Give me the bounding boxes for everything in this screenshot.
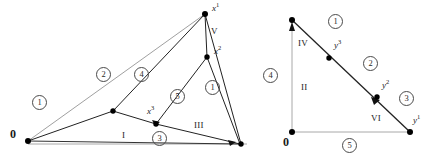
left-roman-III: III <box>194 121 204 130</box>
x2-to-bottomright-edge <box>207 57 240 144</box>
right-circ-3: 3 <box>399 91 414 106</box>
right-y3-sup: 3 <box>338 38 341 45</box>
figure-container: 0 x1 x2 x3 V I III 1 2 4 5 1 3 <box>0 0 439 157</box>
vertex-origin <box>25 138 31 144</box>
right-origin-label: 0 <box>283 136 289 148</box>
vertex-top-apex <box>289 17 295 23</box>
left-circ-3: 3 <box>152 131 167 146</box>
vertex-bottomright <box>238 141 243 146</box>
left-x1-sup: 1 <box>216 1 219 8</box>
left-circ-1-right: 1 <box>205 80 220 95</box>
left-simplex-diagram: 0 x1 x2 x3 V I III 1 2 4 5 1 3 <box>0 0 258 157</box>
right-diagram-svg <box>258 0 439 157</box>
left-x2-sup: 2 <box>218 44 221 51</box>
hypotenuse-edge <box>292 20 410 132</box>
vertex-y1 <box>407 129 413 135</box>
right-circ-1: 1 <box>328 14 343 29</box>
vertex-y3 <box>326 55 331 60</box>
right-circ-5: 5 <box>342 138 357 153</box>
vertex-y2 <box>374 94 379 99</box>
left-diagram-svg <box>0 0 258 157</box>
vertex-x1 <box>202 11 208 17</box>
left-x3-label: x3 <box>147 107 154 116</box>
vertex-node <box>110 108 115 113</box>
right-simplex-diagram: 0 y3 y2 y1 IV II VI 1 2 3 4 5 <box>258 0 439 157</box>
left-circ-4: 4 <box>134 67 149 82</box>
right-y2-label: y2 <box>382 81 389 90</box>
right-y1-sup: 1 <box>417 113 420 120</box>
vertex-x2 <box>204 54 209 59</box>
right-circ-4: 4 <box>263 68 278 83</box>
left-circ-2: 2 <box>96 67 111 82</box>
left-origin-label: 0 <box>10 128 16 140</box>
vertex-x3 <box>153 121 158 126</box>
right-circ-2: 2 <box>363 56 378 71</box>
arrowhead-vertical <box>289 22 295 31</box>
right-roman-IV: IV <box>298 39 308 48</box>
left-x2-label: x2 <box>214 47 221 56</box>
right-y3-label: y3 <box>334 41 341 50</box>
right-roman-II: II <box>301 83 308 92</box>
node-to-x1-edge <box>113 14 205 111</box>
left-x1-label: x1 <box>212 4 219 13</box>
origin-to-x1-edge <box>28 14 205 141</box>
right-y1-label: y1 <box>413 116 420 125</box>
vertex-origin <box>289 129 295 135</box>
left-x3-sup: 3 <box>151 104 154 111</box>
left-circ-5: 5 <box>170 89 185 104</box>
left-circ-1-left: 1 <box>32 95 47 110</box>
origin-to-node-edge <box>28 111 113 141</box>
right-y2-sup: 2 <box>386 78 389 85</box>
right-roman-VI: VI <box>371 114 381 123</box>
left-roman-I: I <box>122 131 125 140</box>
left-roman-V: V <box>211 27 218 36</box>
